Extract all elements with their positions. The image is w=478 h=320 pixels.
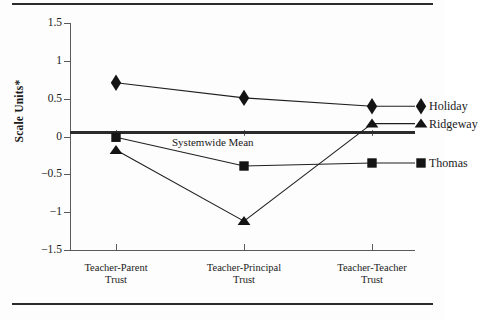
x-tick-mark: [244, 244, 245, 251]
legend-item-ridgeway: Ridgeway: [429, 118, 478, 130]
x-category-label: Teacher-PrincipalTrust: [185, 262, 303, 286]
y-tick-label: −1: [28, 206, 62, 218]
y-tick-label: 1: [28, 55, 62, 67]
x-category-label-line1: Teacher-Principal: [185, 262, 303, 274]
series-holiday: [111, 75, 426, 115]
y-tick-label: 0: [28, 131, 62, 143]
diamond-marker: [239, 90, 249, 106]
triangle-marker: [110, 145, 123, 154]
diamond-marker: [367, 98, 377, 114]
diamond-marker: [111, 75, 121, 91]
x-category-label: Teacher-TeacherTrust: [313, 262, 431, 286]
y-tick-label-wrap: −1.5: [22, 244, 62, 256]
y-axis-top-cap: [64, 23, 70, 24]
x-category-label-line2: Trust: [57, 274, 175, 286]
x-category-label-line1: Teacher-Teacher: [313, 262, 431, 274]
x-category-label-line2: Trust: [313, 274, 431, 286]
square-marker: [239, 161, 248, 170]
y-tick-mark: [64, 212, 70, 213]
y-tick-label: 0.5: [28, 93, 62, 105]
legend-item-thomas: Thomas: [429, 157, 468, 169]
x-tick-mark: [116, 244, 117, 251]
triangle-marker: [238, 216, 251, 225]
x-axis-line: [70, 250, 415, 251]
x-category-label-line1: Teacher-Parent: [57, 262, 175, 274]
square-marker: [367, 158, 376, 167]
y-tick-mark: [64, 61, 70, 62]
y-tick-label-wrap: 0.5: [22, 93, 62, 105]
y-tick-mark: [64, 250, 70, 251]
triangle-marker: [415, 118, 428, 127]
x-tick-mark: [372, 244, 373, 251]
triangle-marker: [366, 118, 379, 127]
y-tick-label: −1.5: [28, 244, 62, 256]
y-axis-line: [70, 23, 71, 251]
y-tick-label-wrap: 1.5: [22, 17, 62, 29]
y-tick-label-wrap: 1: [22, 55, 62, 67]
square-marker: [416, 158, 425, 167]
x-category-label: Teacher-ParentTrust: [57, 262, 175, 286]
legend-item-holiday: Holiday: [429, 100, 468, 112]
series-thomas: [111, 133, 425, 171]
series-ridgeway: [110, 118, 428, 225]
y-tick-label-wrap: −1: [22, 206, 62, 218]
y-tick-label: −0.5: [28, 168, 62, 180]
y-tick-label: 1.5: [28, 17, 62, 29]
y-tick-mark: [64, 174, 70, 175]
systemwide-mean-label: Systemwide Mean: [172, 136, 254, 148]
diamond-marker: [416, 98, 426, 114]
y-tick-mark: [64, 137, 70, 138]
systemwide-mean-line: [70, 131, 415, 134]
y-tick-label-wrap: −0.5: [22, 168, 62, 180]
y-tick-label-wrap: 0: [22, 131, 62, 143]
y-tick-mark: [64, 99, 70, 100]
series-line: [116, 83, 372, 106]
x-category-label-line2: Trust: [185, 274, 303, 286]
